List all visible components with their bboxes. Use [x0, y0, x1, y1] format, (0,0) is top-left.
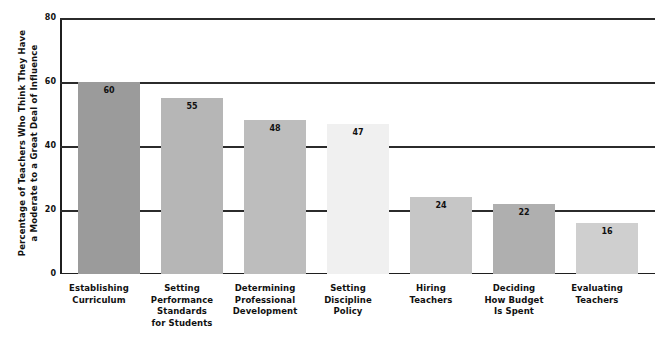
category-label-line: Setting: [307, 283, 389, 295]
category-label-line: Setting: [141, 283, 223, 295]
gridline-60: [60, 82, 655, 84]
category-label-evaluating-teachers: Evaluating Teachers: [556, 283, 638, 306]
category-label-determining-professional-development: Determining Professional Development: [224, 283, 306, 318]
category-label-line: Policy: [307, 306, 389, 318]
bar-value-label: 22: [493, 208, 555, 217]
category-label-line: Standards: [141, 306, 223, 318]
category-label-setting-performance-standards: Setting Performance Standards for Studen…: [141, 283, 223, 329]
bar-value-label: 16: [576, 227, 638, 236]
gridline-80: [60, 18, 655, 20]
bar-value-label: 48: [244, 124, 306, 133]
bar-chart: Percentage of Teachers Who Think They Ha…: [0, 0, 661, 341]
category-label-line: Teachers: [556, 295, 638, 307]
bar-setting-discipline-policy[interactable]: 47: [327, 124, 389, 274]
bar-value-label: 47: [327, 128, 389, 137]
category-label-line: Performance: [141, 295, 223, 307]
category-label-line: Curriculum: [58, 295, 140, 307]
bar-setting-performance-standards[interactable]: 55: [161, 98, 223, 274]
bar-value-label: 60: [78, 86, 140, 95]
category-label-line: Establishing: [58, 283, 140, 295]
category-label-hiring-teachers: Hiring Teachers: [390, 283, 472, 306]
y-tick-label-20: 20: [30, 206, 56, 214]
category-label-line: for Students: [141, 318, 223, 330]
category-label-line: Hiring: [390, 283, 472, 295]
y-tick-label-40: 40: [30, 142, 56, 150]
y-tick-label-0: 0: [30, 270, 56, 278]
y-axis-title-line-1: Percentage of Teachers Who Think They Ha…: [16, 29, 28, 255]
bar-value-label: 24: [410, 201, 472, 210]
category-label-line: Development: [224, 306, 306, 318]
category-label-line: Teachers: [390, 295, 472, 307]
bar-establishing-curriculum[interactable]: 60: [78, 82, 140, 274]
category-label-line: Is Spent: [473, 306, 555, 318]
category-label-line: Professional: [224, 295, 306, 307]
category-label-line: Deciding: [473, 283, 555, 295]
bar-evaluating-teachers[interactable]: 16: [576, 223, 638, 274]
y-tick-label-60: 60: [30, 78, 56, 86]
category-label-line: Evaluating: [556, 283, 638, 295]
category-label-deciding-how-budget-is-spent: Deciding How Budget Is Spent: [473, 283, 555, 318]
category-label-setting-discipline-policy: Setting Discipline Policy: [307, 283, 389, 318]
y-tick-label-80: 80: [30, 14, 56, 22]
bar-deciding-how-budget-is-spent[interactable]: 22: [493, 204, 555, 274]
plot-area: 60 55 48 47 24 22 16: [60, 18, 655, 274]
bar-determining-professional-development[interactable]: 48: [244, 120, 306, 274]
category-label-line: Determining: [224, 283, 306, 295]
bar-hiring-teachers[interactable]: 24: [410, 197, 472, 274]
bar-value-label: 55: [161, 102, 223, 111]
category-label-establishing-curriculum: Establishing Curriculum: [58, 283, 140, 306]
category-label-line: How Budget: [473, 295, 555, 307]
category-label-line: Discipline: [307, 295, 389, 307]
